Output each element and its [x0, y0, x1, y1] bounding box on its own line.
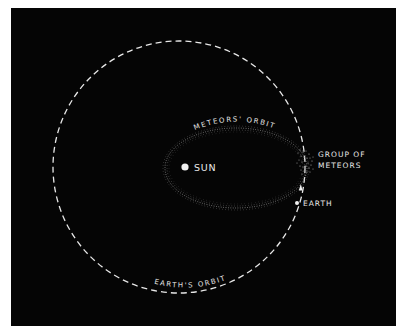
earths-orbit-label: EARTH'S ORBIT [153, 274, 227, 290]
earth-label: EARTH [303, 200, 333, 208]
group-of-meteors-label-line1: GROUP OF [318, 151, 366, 159]
sun-label: SUN [194, 163, 217, 173]
earth-dot [295, 201, 299, 205]
sun-dot [181, 163, 188, 170]
meteors-orbit-label: METEORS' ORBIT [193, 115, 277, 132]
group-of-meteors-label-line2: METEORS [318, 162, 361, 170]
orbit-direction-arrow-icon [299, 184, 303, 191]
earths-orbit-circle [53, 41, 305, 293]
